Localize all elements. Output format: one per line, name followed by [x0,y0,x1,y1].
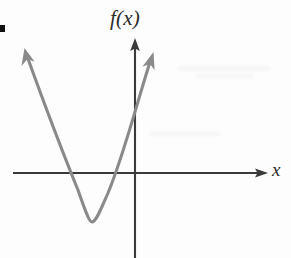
figure-container: f(x) x [0,0,291,258]
function-curve-parabola [27,56,151,222]
axes-group [13,38,268,258]
y-axis-label: f(x) [110,6,140,31]
x-axis-label: x [272,159,280,181]
graph-canvas [0,0,291,258]
